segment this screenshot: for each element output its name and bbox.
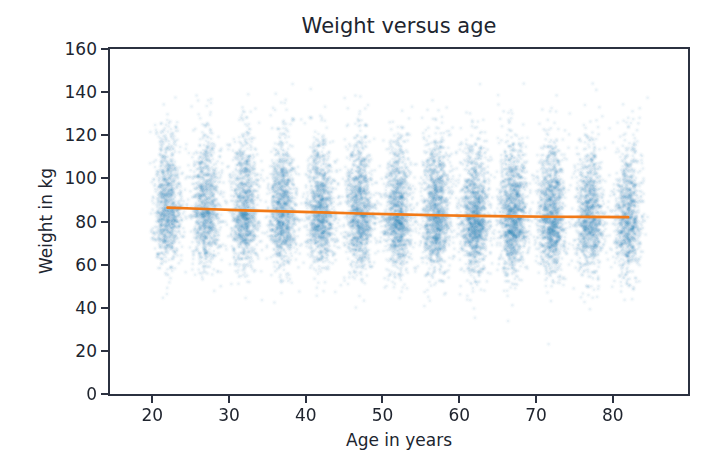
y-tick-label: 60 xyxy=(55,254,97,276)
x-tick-mark xyxy=(228,396,230,403)
x-tick-mark xyxy=(458,396,460,403)
x-tick-mark xyxy=(151,396,153,403)
y-tick-mark xyxy=(101,350,108,352)
y-tick-label: 20 xyxy=(55,340,97,362)
x-tick-label: 60 xyxy=(437,404,481,426)
y-tick-mark xyxy=(101,177,108,179)
x-tick-label: 80 xyxy=(591,404,635,426)
y-tick-label: 100 xyxy=(55,167,97,189)
y-tick-label: 140 xyxy=(55,81,97,103)
x-tick-mark xyxy=(535,396,537,403)
y-tick-label: 0 xyxy=(55,383,97,405)
y-axis-label: Weight in kg xyxy=(35,121,57,321)
y-tick-mark xyxy=(101,264,108,266)
x-tick-mark xyxy=(612,396,614,403)
y-tick-mark xyxy=(101,221,108,223)
y-tick-label: 40 xyxy=(55,297,97,319)
y-tick-mark xyxy=(101,91,108,93)
chart-title: Weight versus age xyxy=(110,14,688,39)
y-tick-mark xyxy=(101,48,108,50)
x-tick-mark xyxy=(305,396,307,403)
y-tick-label: 80 xyxy=(55,211,97,233)
y-tick-mark xyxy=(101,134,108,136)
x-axis-label: Age in years xyxy=(110,429,688,451)
figure: Weight versus age Weight in kg Age in ye… xyxy=(0,0,720,470)
x-tick-mark xyxy=(381,396,383,403)
x-tick-label: 30 xyxy=(207,404,251,426)
x-tick-label: 70 xyxy=(514,404,558,426)
y-tick-mark xyxy=(101,307,108,309)
scatter-plot-canvas xyxy=(110,49,688,394)
x-tick-label: 20 xyxy=(130,404,174,426)
y-tick-label: 120 xyxy=(55,124,97,146)
y-tick-mark xyxy=(101,393,108,395)
x-tick-label: 50 xyxy=(360,404,404,426)
x-tick-label: 40 xyxy=(284,404,328,426)
y-tick-label: 160 xyxy=(55,38,97,60)
